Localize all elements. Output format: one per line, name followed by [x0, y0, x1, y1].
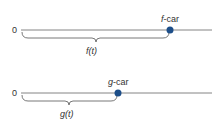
- f-car-label: f-car: [161, 14, 179, 24]
- distance-brace-f: [22, 32, 169, 42]
- f-car-dot: [167, 27, 174, 34]
- g-of-t-label: g(t): [60, 109, 74, 119]
- g-car-label: g-car: [108, 77, 129, 87]
- g-car-dot: [115, 90, 122, 97]
- f-car-diagram: 0 f-car f(t): [12, 14, 212, 56]
- origin-label-f: 0: [12, 25, 17, 35]
- f-of-t-label: f(t): [86, 46, 97, 56]
- two-car-diagram: 0 f-car f(t) 0 g-car g(t): [0, 0, 223, 131]
- distance-brace-g: [22, 95, 117, 105]
- origin-label-g: 0: [12, 88, 17, 98]
- g-car-diagram: 0 g-car g(t): [12, 77, 212, 119]
